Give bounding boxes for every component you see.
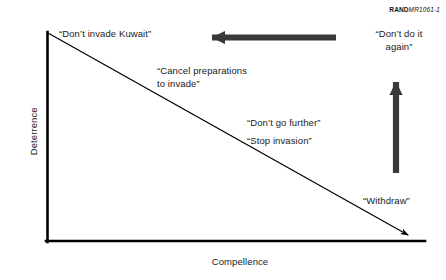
y-axis-label: Deterrence <box>28 91 41 171</box>
deterrence-compellence-figure: RANDMR1061-1 “Don’t invade Kuwait” “Canc… <box>0 0 446 280</box>
annotation-dont-go-further: “Don’t go further” <box>247 117 321 130</box>
annotation-dont-invade-kuwait: “Don’t invade Kuwait” <box>59 28 151 41</box>
annotation-withdraw: “Withdraw” <box>363 195 410 208</box>
x-axis-label: Compellence <box>180 256 300 269</box>
source-credit: RANDMR1061-1 <box>389 6 440 13</box>
annotation-cancel-preparations-to-invade: “Cancel preparations to invade” <box>157 65 247 90</box>
tradeoff-trend-line <box>48 33 408 235</box>
source-credit-italic: MR1061-1 <box>409 6 440 13</box>
annotation-dont-do-it-again: “Don’t do it again” <box>357 28 441 53</box>
source-credit-bold: RAND <box>389 6 408 13</box>
annotation-stop-invasion: “Stop invasion” <box>247 135 312 148</box>
